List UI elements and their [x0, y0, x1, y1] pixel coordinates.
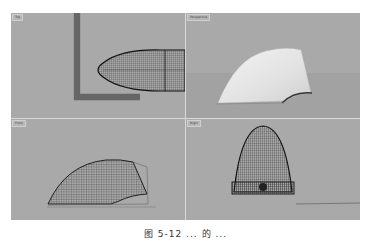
wireframe-parabola-right-view [186, 119, 360, 220]
shaded-fin-surface-view [186, 13, 360, 118]
viewport-front[interactable]: Front [11, 119, 185, 220]
viewport-right[interactable]: Right [186, 119, 360, 220]
axis-icon [11, 13, 185, 118]
viewport-top[interactable]: Top [11, 13, 185, 118]
wireframe-fin-front-view [11, 119, 185, 220]
viewport-perspective[interactable]: Perspective [186, 13, 360, 118]
viewport-grid: Top Perspective [11, 13, 360, 220]
figure-caption: 图 5-12 ... 的 ... [0, 227, 371, 240]
